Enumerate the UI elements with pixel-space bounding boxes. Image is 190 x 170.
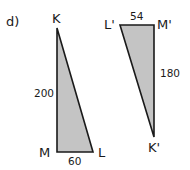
vertex-m: M xyxy=(39,145,50,160)
problem-label: d) xyxy=(6,14,19,29)
side-mk-prime-length: 180 xyxy=(160,67,180,79)
similar-triangles-diagram: d) K M L 200 60 L' M' K' 54 180 xyxy=(0,0,190,170)
side-lm-prime-length: 54 xyxy=(130,10,144,22)
side-km-length: 200 xyxy=(34,87,54,99)
triangle-kml: K M L 200 60 xyxy=(34,11,106,167)
triangle-kml-shape xyxy=(57,28,93,152)
vertex-k-prime: K' xyxy=(148,140,160,155)
side-ml-length: 60 xyxy=(68,155,81,167)
triangle-klm-prime: L' M' K' 54 180 xyxy=(104,10,180,155)
triangle-klm-prime-shape xyxy=(120,25,154,137)
vertex-k: K xyxy=(52,11,61,26)
vertex-l-prime: L' xyxy=(104,17,115,32)
vertex-m-prime: M' xyxy=(157,17,172,32)
vertex-l: L xyxy=(98,145,106,160)
